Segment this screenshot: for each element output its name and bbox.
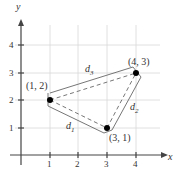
tick-y-2: 2 (9, 95, 14, 105)
d3-label: d3 (85, 63, 94, 77)
point-1-2 (47, 97, 53, 103)
tick-x-2: 2 (75, 159, 80, 169)
d2-label: d2 (130, 101, 139, 115)
point-3-1 (104, 125, 110, 131)
point-label-1-2: (1, 2) (26, 80, 48, 92)
distance-triangle-figure: y x 1 2 3 4 1 2 3 4 (1, 2) (3, 1) (4, 3)… (0, 0, 177, 170)
y-axis-label: y (15, 1, 21, 12)
tick-x-1: 1 (47, 159, 52, 169)
tick-y-1: 1 (9, 123, 14, 133)
x-axis-arrow-icon (161, 152, 168, 158)
point-label-4-3: (4, 3) (128, 56, 150, 68)
chart-canvas: y x 1 2 3 4 1 2 3 4 (1, 2) (3, 1) (4, 3)… (0, 0, 177, 170)
axes (10, 22, 164, 165)
d1-label: d1 (66, 120, 75, 134)
tick-x-4: 4 (133, 159, 138, 169)
x-axis-label: x (167, 151, 173, 162)
point-4-3 (133, 70, 139, 76)
triangle-dashed (50, 73, 136, 128)
point-label-3-1: (3, 1) (109, 132, 131, 144)
tick-y-3: 3 (9, 68, 14, 78)
tick-y-4: 4 (9, 40, 14, 50)
grid (15, 25, 160, 160)
tick-x-3: 3 (104, 159, 109, 169)
y-axis-arrow-icon (18, 19, 24, 26)
